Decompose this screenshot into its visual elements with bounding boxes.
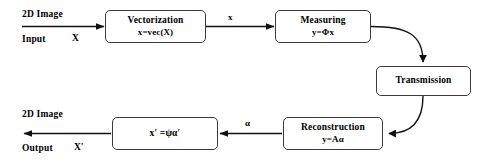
output-heading-label: 2D Image xyxy=(22,110,63,120)
edge-label-x: x xyxy=(228,13,233,22)
node-reconstruction-formula: y=Aα xyxy=(322,134,344,145)
node-measuring-formula: y=Φx xyxy=(312,27,334,38)
node-vectorization-formula: x=vec(X) xyxy=(138,27,173,38)
node-vectorization-title: Vectorization xyxy=(128,15,184,26)
node-inverse-transform-title: x′ =ψα′ xyxy=(150,128,181,139)
node-reconstruction-title: Reconstruction xyxy=(301,122,365,133)
node-transmission[interactable]: Transmission xyxy=(376,66,471,96)
edge-label-alpha: α xyxy=(245,119,250,128)
output-label: Output xyxy=(22,144,53,154)
arrow-transmission-to-reconstruction xyxy=(389,96,423,134)
input-symbol-label: X xyxy=(72,34,79,44)
node-reconstruction[interactable]: Reconstruction y=Aα xyxy=(283,117,383,150)
input-heading-label: 2D Image xyxy=(22,10,63,20)
node-vectorization[interactable]: Vectorization x=vec(X) xyxy=(105,10,206,43)
input-label: Input xyxy=(22,35,46,45)
node-measuring-title: Measuring xyxy=(300,15,345,26)
arrow-measuring-to-transmission xyxy=(371,27,423,63)
node-measuring[interactable]: Measuring y=Φx xyxy=(275,10,371,43)
node-inverse-transform[interactable]: x′ =ψα′ xyxy=(112,117,218,150)
node-transmission-title: Transmission xyxy=(396,75,452,86)
output-symbol-label: X′ xyxy=(74,143,84,153)
flowchart-diagram: Vectorization x=vec(X) Measuring y=Φx Tr… xyxy=(0,0,489,163)
